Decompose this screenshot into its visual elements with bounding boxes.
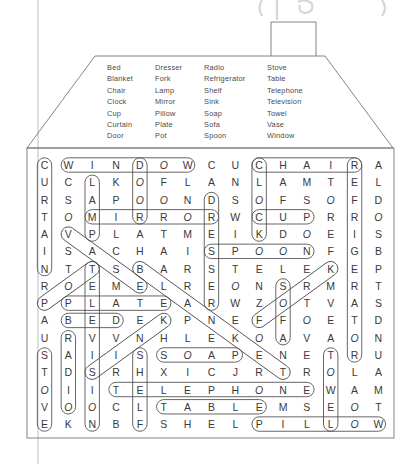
grid-letter: C xyxy=(208,366,216,378)
grid-letter: E xyxy=(256,401,263,413)
grid-letter: F xyxy=(137,418,143,430)
grid-letter: S xyxy=(65,245,72,257)
grid-letter: L xyxy=(113,228,119,240)
grid-letter: S xyxy=(279,280,286,292)
grid-letter: I xyxy=(186,366,189,378)
grid-letter: U xyxy=(41,176,49,188)
grid-letter: F xyxy=(280,194,286,206)
grid-letter: K xyxy=(256,228,263,240)
word-list-item: Blanket xyxy=(107,74,133,83)
partial-header-title: (page ...) xyxy=(0,0,385,20)
word-list-item: Telephone xyxy=(267,86,303,95)
grid-letter: E xyxy=(208,418,215,430)
grid-letter: H xyxy=(232,384,240,396)
grid-letter: R xyxy=(255,366,263,378)
grid-letter: R xyxy=(303,280,311,292)
grid-letter: T xyxy=(280,366,287,378)
grid-letter: D xyxy=(375,194,383,206)
grid-letter: A xyxy=(351,297,358,309)
grid-letter: K xyxy=(65,418,72,430)
grid-letter: H xyxy=(279,159,287,171)
grid-letter: A xyxy=(65,349,72,361)
grid-letter: I xyxy=(67,384,70,396)
grid-letter: O xyxy=(160,159,168,171)
grid-letter: Z xyxy=(256,297,263,309)
found-word-loop-mirror xyxy=(85,210,219,224)
word-list-item: Pot xyxy=(155,131,167,140)
grid-letter: T xyxy=(65,263,72,275)
grid-letter: C xyxy=(112,401,120,413)
grid-letter: D xyxy=(375,314,383,326)
grid-letter: F xyxy=(327,245,333,257)
word-list-item: Bed xyxy=(107,63,121,72)
grid-letter: P xyxy=(303,211,310,223)
grid-letter: O xyxy=(255,194,263,206)
grid-letter: O xyxy=(350,401,358,413)
grid-letter: X xyxy=(160,366,167,378)
grid-letter: S xyxy=(113,263,120,275)
grid-letter: E xyxy=(89,314,96,326)
grid-letter: A xyxy=(375,366,382,378)
grid-letter: S xyxy=(160,349,167,361)
grid-letter: R xyxy=(351,159,359,171)
grid-letter: I xyxy=(186,245,189,257)
grid-letter: M xyxy=(302,176,311,188)
house-chimney xyxy=(271,22,316,56)
found-word-loop-pillow xyxy=(252,417,386,431)
grid-letter: T xyxy=(327,176,334,188)
grid-letter: C xyxy=(255,211,263,223)
grid-letter: O xyxy=(64,401,72,413)
grid-letter: R xyxy=(184,280,192,292)
grid-letter: A xyxy=(279,176,286,188)
grid-letter: S xyxy=(303,401,310,413)
grid-letter: O xyxy=(231,280,239,292)
grid-letter: L xyxy=(280,263,286,275)
grid-letter: O xyxy=(303,228,311,240)
grid-letter: O xyxy=(350,418,358,430)
grid-letter: N xyxy=(375,332,383,344)
grid-letter: E xyxy=(184,384,191,396)
grid-letter: K xyxy=(327,263,334,275)
grid-letter: O xyxy=(64,280,72,292)
grid-letter: E xyxy=(327,314,334,326)
grid-letter: T xyxy=(351,314,358,326)
grid-letter: P xyxy=(89,228,96,240)
grid-letter: E xyxy=(327,228,334,240)
word-list-item: Sink xyxy=(204,97,219,106)
grid-letter: R xyxy=(327,211,335,223)
grid-letter: M xyxy=(326,280,335,292)
grid-letter: W xyxy=(326,384,336,396)
grid-letter: H xyxy=(136,366,144,378)
grid-letter: A xyxy=(279,332,286,344)
word-list-item: Curtain xyxy=(107,120,132,129)
grid-letter: E xyxy=(208,280,215,292)
grid-letter: V xyxy=(113,332,120,344)
grid-letter: T xyxy=(41,366,48,378)
grid-letter: K xyxy=(113,176,120,188)
grid-letter: S xyxy=(375,297,382,309)
grid-letter: E xyxy=(208,228,215,240)
grid-letter: M xyxy=(279,401,288,413)
grid-letter: A xyxy=(160,245,167,257)
grid-letter: A xyxy=(351,384,358,396)
word-list-item: Chair xyxy=(107,86,126,95)
grid-letter: A xyxy=(208,349,215,361)
grid-letter: V xyxy=(89,332,96,344)
grid-letter: I xyxy=(115,349,118,361)
grid-letter: L xyxy=(375,176,381,188)
grid-letter: O xyxy=(303,314,311,326)
grid-letter: P xyxy=(65,297,72,309)
grid-letter: I xyxy=(91,349,94,361)
grid-letter: N xyxy=(41,263,49,275)
word-list-item: Fork xyxy=(155,74,171,83)
grid-letter: B xyxy=(136,263,143,275)
grid-letter: T xyxy=(327,349,334,361)
grid-letter: T xyxy=(89,263,96,275)
grid-letter: I xyxy=(115,211,118,223)
word-list-item: Clock xyxy=(107,97,127,106)
grid-letter: L xyxy=(328,418,334,430)
grid-letter: V xyxy=(303,332,310,344)
grid-letter: O xyxy=(279,297,287,309)
grid-letter: F xyxy=(256,314,262,326)
word-list-item: Cup xyxy=(107,109,121,118)
